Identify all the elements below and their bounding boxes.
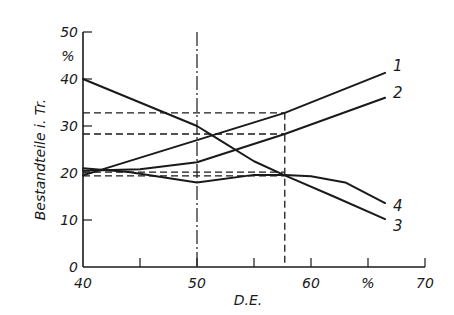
y-unit-label: %: [61, 48, 74, 64]
y-tick-label: 10: [60, 212, 78, 228]
curve-4: [83, 168, 385, 203]
x-axis-title: D.E.: [234, 292, 263, 308]
x-tick-label: 60: [302, 275, 320, 291]
reference-lines: [83, 32, 285, 267]
curve-1: [83, 73, 385, 175]
y-axis-title: Bestandteile i. Tr.: [32, 99, 48, 220]
x-tick-label: 40: [74, 275, 92, 291]
curve-label-4: 4: [393, 197, 403, 215]
y-tick-label: 30: [60, 118, 78, 134]
y-tick-label: 50: [60, 24, 78, 40]
chart: 01020304050%405060%70D.E.Bestandteile i.…: [0, 0, 454, 315]
curves: [83, 73, 385, 219]
axes: [83, 32, 425, 267]
x-tick-label: %: [361, 275, 374, 291]
y-tick-label: 0: [69, 259, 78, 275]
y-tick-label: 20: [60, 165, 78, 181]
curve-label-1: 1: [393, 57, 403, 75]
curve-label-3: 3: [393, 217, 403, 235]
x-tick-label: 70: [416, 275, 434, 291]
y-tick-label: 40: [60, 71, 78, 87]
curve-3: [83, 79, 385, 219]
x-tick-label: 50: [188, 275, 206, 291]
curve-label-2: 2: [393, 84, 403, 102]
labels: 01020304050%405060%70D.E.Bestandteile i.…: [32, 24, 434, 308]
